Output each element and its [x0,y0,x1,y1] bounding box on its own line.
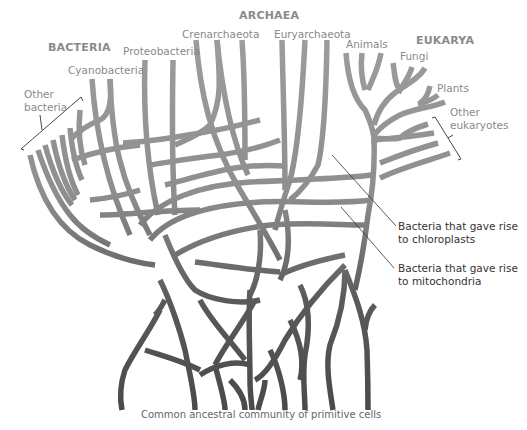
domain-label-eukarya: EUKARYA [416,34,474,47]
group-label-cyanobacteria: Cyanobacteria [68,64,144,76]
group-label-crenarchaeota: Crenarchaeota [182,28,259,40]
group-label-proteobacteria: Proteobacteria [123,45,200,57]
root-label: Common ancestral community of primitive … [141,409,381,420]
group-label-fungi: Fungi [400,50,428,62]
annotation-mitochondria-line1: Bacteria that gave rise [398,262,518,275]
group-label-other-bacteria-line2: bacteria [24,101,67,113]
group-label-plants: Plants [437,82,469,94]
annotation-mitochondria-line2: to mitochondria [398,275,518,288]
group-label-other-bacteria-line1: Other [24,88,54,100]
annotation-chloroplasts-line1: Bacteria that gave rise [398,220,518,233]
annotation-mitochondria: Bacteria that gave rise to mitochondria [398,262,518,288]
group-label-euryarchaeota: Euryarchaeota [274,28,351,40]
group-label-animals: Animals [346,38,388,50]
group-label-other-eukaryotes-line1: Other [450,106,480,118]
domain-label-archaea: ARCHAEA [239,9,299,22]
annotation-chloroplasts: Bacteria that gave rise to chloroplasts [398,220,518,246]
group-label-other-eukaryotes-line2: eukaryotes [450,119,508,131]
domain-label-bacteria: BACTERIA [48,41,111,54]
annotation-chloroplasts-line2: to chloroplasts [398,233,518,246]
